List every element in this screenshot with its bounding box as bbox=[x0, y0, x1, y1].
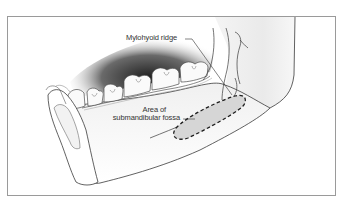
premolar-2 bbox=[104, 84, 123, 102]
label-area-line2: submandibular fossa bbox=[88, 114, 180, 122]
label-mylohyoid-ridge: Mylohyoid ridge bbox=[126, 34, 177, 42]
mandible-illustration bbox=[0, 0, 345, 206]
molar-2 bbox=[152, 68, 179, 90]
premolar-1 bbox=[87, 88, 103, 106]
label-submandibular-fossa: Area of submandibular fossa bbox=[88, 106, 180, 122]
